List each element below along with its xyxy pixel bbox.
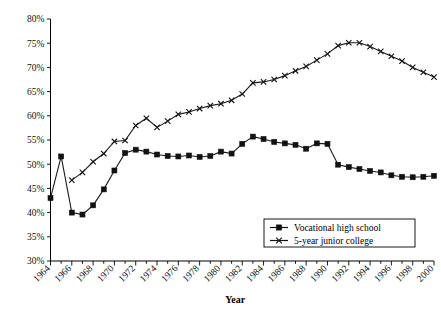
x-tick-label: 1986: [266, 263, 287, 284]
data-point-marker: [421, 70, 426, 75]
data-point-marker: [304, 146, 309, 151]
x-tick-label: 1996: [372, 263, 393, 284]
data-point-marker: [368, 168, 373, 173]
x-tick-label: 1966: [53, 263, 74, 284]
data-point-marker: [133, 147, 138, 152]
data-point-marker: [325, 51, 330, 56]
x-tick-label: 1984: [244, 263, 265, 284]
legend-item-label: 5-year junior college: [294, 236, 373, 246]
x-axis-ticks: 1964196619681970197219741976197819801982…: [31, 261, 435, 284]
data-point-marker: [186, 153, 191, 158]
x-tick-label: 1992: [330, 263, 351, 284]
data-point-marker: [91, 203, 96, 208]
data-point-marker: [112, 168, 117, 173]
x-tick-label: 1972: [117, 263, 138, 284]
y-tick-label: 70%: [27, 63, 45, 73]
chart-container: 30%35%40%45%50%55%60%65%70%75%80%1964196…: [0, 0, 441, 323]
data-point-marker: [325, 141, 330, 146]
x-tick-label: 1970: [95, 263, 116, 284]
data-point-marker: [276, 225, 281, 230]
data-point-marker: [389, 54, 394, 59]
data-point-marker: [155, 152, 160, 157]
x-tick-label: 1976: [159, 263, 180, 284]
data-point-marker: [154, 125, 159, 130]
x-tick-label: 1980: [202, 263, 223, 284]
data-point-marker: [69, 177, 74, 182]
y-tick-label: 40%: [27, 208, 45, 218]
data-point-marker: [261, 137, 266, 142]
x-tick-label: 1978: [181, 263, 202, 284]
data-point-marker: [80, 170, 85, 175]
data-point-marker: [314, 57, 319, 62]
y-tick-label: 55%: [27, 135, 45, 145]
x-tick-label: 1968: [74, 263, 95, 284]
y-tick-label: 45%: [27, 184, 45, 194]
y-tick-label: 35%: [27, 232, 45, 242]
data-point-marker: [282, 141, 287, 146]
data-point-marker: [432, 173, 437, 178]
data-point-marker: [293, 68, 298, 73]
data-point-marker: [303, 64, 308, 69]
series-2: [69, 40, 437, 183]
series-line: [72, 43, 434, 180]
legend-item-label: Vocational high school: [294, 223, 381, 233]
y-tick-label: 60%: [27, 111, 45, 121]
data-point-marker: [431, 74, 436, 79]
data-point-marker: [399, 58, 404, 63]
x-tick-label: 1998: [394, 263, 415, 284]
data-point-marker: [197, 154, 202, 159]
x-tick-label: 2000: [415, 263, 436, 284]
data-point-marker: [293, 142, 298, 147]
data-point-marker: [272, 139, 277, 144]
data-point-marker: [229, 151, 234, 156]
data-point-marker: [165, 153, 170, 158]
series-1: [48, 134, 437, 217]
y-axis-ticks: 30%35%40%45%50%55%60%65%70%75%80%: [27, 14, 50, 266]
data-point-marker: [410, 65, 415, 70]
x-tick-label: 1994: [351, 263, 372, 284]
data-point-marker: [90, 159, 95, 164]
data-point-marker: [367, 44, 372, 49]
data-point-marker: [336, 162, 341, 167]
data-point-marker: [144, 116, 149, 121]
data-point-marker: [389, 173, 394, 178]
data-point-marker: [240, 141, 245, 146]
data-point-marker: [176, 154, 181, 159]
data-point-marker: [282, 73, 287, 78]
y-tick-label: 50%: [27, 160, 45, 170]
data-point-marker: [208, 153, 213, 158]
legend: Vocational high school5-year junior coll…: [264, 219, 415, 247]
data-point-marker: [165, 118, 170, 123]
x-tick-label: 1982: [223, 263, 244, 284]
data-point-marker: [346, 165, 351, 170]
data-point-marker: [218, 149, 223, 154]
data-point-marker: [400, 174, 405, 179]
y-tick-label: 75%: [27, 39, 45, 49]
data-point-marker: [101, 151, 106, 156]
data-point-marker: [80, 212, 85, 217]
x-tick-label: 1990: [308, 263, 329, 284]
data-point-marker: [314, 141, 319, 146]
data-point-marker: [48, 196, 53, 201]
data-point-marker: [378, 49, 383, 54]
x-axis-title: Year: [225, 294, 246, 305]
data-point-marker: [357, 167, 362, 172]
data-point-marker: [410, 175, 415, 180]
data-point-marker: [240, 91, 245, 96]
data-point-marker: [133, 123, 138, 128]
x-tick-label: 1988: [287, 263, 308, 284]
data-point-marker: [69, 210, 74, 215]
y-tick-label: 65%: [27, 87, 45, 97]
data-point-marker: [378, 170, 383, 175]
x-tick-label: 1974: [138, 263, 159, 284]
data-point-marker: [59, 154, 64, 159]
data-point-marker: [101, 187, 106, 192]
data-point-marker: [123, 151, 128, 156]
y-tick-label: 80%: [27, 14, 45, 24]
data-point-marker: [421, 174, 426, 179]
data-point-marker: [250, 134, 255, 139]
data-point-marker: [229, 98, 234, 103]
line-chart: 30%35%40%45%50%55%60%65%70%75%80%1964196…: [0, 0, 441, 323]
data-point-marker: [144, 149, 149, 154]
